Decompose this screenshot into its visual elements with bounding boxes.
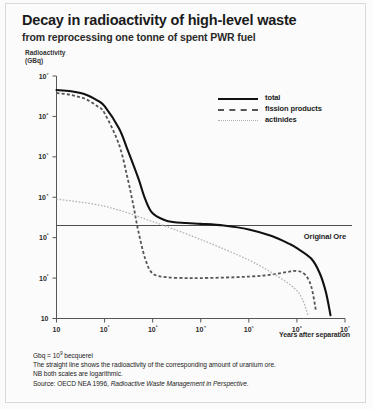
note-gbq-prefix: Gbq = 10 <box>33 352 60 359</box>
figure-container: Decay in radioactivity of high-level was… <box>0 0 373 409</box>
chart-legend: total fission products actinides <box>218 92 322 125</box>
y-tick-label: 10⁶ <box>38 111 48 120</box>
legend-item-actinides: actinides <box>218 114 322 125</box>
legend-item-total: total <box>218 92 322 103</box>
note-line-gbq: Gbq = 109 becquerel <box>33 351 276 360</box>
x-tick-label: 10⁴ <box>196 324 207 333</box>
series-line-actinides <box>57 199 309 315</box>
legend-swatch-fission-products-icon <box>218 105 258 113</box>
y-tick-label: 10⁵ <box>38 151 49 160</box>
y-tick-label: 10⁷ <box>39 71 49 80</box>
x-tick-label: 10⁵ <box>244 324 255 333</box>
note-line-straight: The straight line shows the radioactivit… <box>33 360 276 369</box>
original-ore-label: Original Ore <box>304 232 346 241</box>
legend-label-fission-products: fission products <box>265 104 322 113</box>
x-tick-label: 10³ <box>148 324 158 333</box>
y-tick-label: 10 <box>41 315 49 322</box>
y-tick-label: 10³ <box>39 232 49 241</box>
legend-swatch-actinides-icon <box>218 116 258 124</box>
note-source-title: Radioactive Waste Management in Perspect… <box>111 380 249 387</box>
legend-swatch-total-icon <box>218 94 258 102</box>
x-axis-label: Years after separation <box>279 331 350 338</box>
legend-label-actinides: actinides <box>265 115 297 124</box>
legend-label-total: total <box>265 93 280 102</box>
note-gbq-suffix: becquerel <box>63 352 93 359</box>
chart-plot: 1010²10³10⁴10⁵10⁶10⁷ 1010²10³10⁴10⁵10⁶10… <box>0 0 373 409</box>
y-axis-ticks: 1010²10³10⁴10⁵10⁶10⁷ <box>38 71 56 323</box>
y-tick-label: 10² <box>39 273 49 282</box>
y-tick-label: 10⁴ <box>38 192 49 201</box>
x-tick-label: 10² <box>100 324 110 333</box>
note-line-source: Source: OECD NEA 1996, Radioactive Waste… <box>33 379 276 388</box>
note-line-log: NB both scales are logarithmic. <box>33 369 276 378</box>
figure-notes: Gbq = 109 becquerel The straight line sh… <box>33 351 276 388</box>
note-source-prefix: Source: OECD NEA 1996, <box>33 380 111 387</box>
legend-item-fission-products: fission products <box>218 103 322 114</box>
x-tick-label: 10 <box>53 326 61 333</box>
series-line-fission-products <box>57 93 317 311</box>
